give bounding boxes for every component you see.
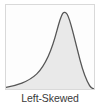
skew-thumbnail: Left-Skewed	[0, 0, 100, 110]
figure-caption: Left-Skewed	[0, 92, 100, 105]
chart-frame	[5, 4, 95, 90]
left-skewed-density-curve	[6, 5, 94, 89]
